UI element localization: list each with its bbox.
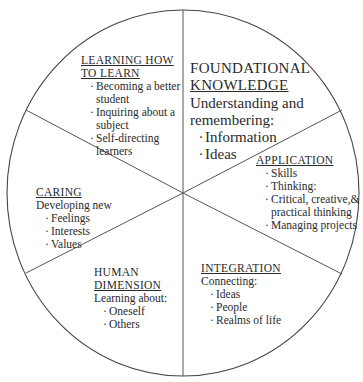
bullet-icon: · [208,301,216,314]
list-item-continuation: subject [81,119,180,132]
foundational-title-line1: FOUNDATIONAL [190,60,310,77]
learning-title-line2: TO LEARN [81,67,180,80]
bullet-icon: · [88,106,96,119]
bullet-icon: · [197,129,205,146]
segment-application: APPLICATION ·Skills ·Thinking: ·Critical… [256,154,359,232]
list-item: ·Ideas [201,288,281,301]
list-item: ·Information [190,129,310,146]
bullet-icon: · [263,167,271,180]
bullet-icon: · [43,238,51,251]
list-item-continuation: learners [81,145,180,158]
segment-caring: CARING Developing new ·Feelings ·Interes… [36,186,112,251]
bullet-icon: · [263,180,271,193]
list-item: ·Inquiring about a [81,106,180,119]
list-item: ·Becoming a better [81,80,180,93]
bullet-icon: · [88,80,96,93]
list-item: ·Others [94,318,167,331]
list-item: ·Thinking: [256,180,359,193]
bullet-icon: · [263,219,271,232]
foundational-subtitle-line2: remembering: [190,112,310,129]
bullet-icon: · [43,225,51,238]
bullet-icon: · [101,318,109,331]
human-subtitle: Learning about: [94,292,167,305]
segment-foundational-knowledge: FOUNDATIONAL KNOWLEDGE Understanding and… [190,60,310,164]
bullet-icon: · [101,305,109,318]
caring-subtitle: Developing new [36,199,112,212]
human-title-line1: HUMAN [94,266,167,279]
list-item: ·Self-directing [81,132,180,145]
foundational-title-line2: KNOWLEDGE [190,77,310,94]
bullet-icon: · [208,288,216,301]
segment-integration: INTEGRATION Connecting: ·Ideas ·People ·… [201,262,281,327]
caring-title: CARING [36,186,112,199]
list-item: ·Critical, creative,& [256,193,359,206]
list-item: ·Values [36,238,112,251]
list-item: ·People [201,301,281,314]
list-item-continuation: student [81,93,180,106]
bullet-icon: · [208,314,216,327]
human-title-line2: DIMENSION [94,279,167,292]
application-title: APPLICATION [256,154,359,167]
bullet-icon: · [43,212,51,225]
integration-subtitle: Connecting: [201,275,281,288]
segment-human-dimension: HUMAN DIMENSION Learning about: ·Oneself… [94,266,167,331]
list-item: ·Realms of life [201,314,281,327]
list-item-continuation: practical thinking [256,206,359,219]
integration-title: INTEGRATION [201,262,281,275]
list-item: ·Managing projects [256,219,359,232]
list-item: ·Feelings [36,212,112,225]
list-item: ·Oneself [94,305,167,318]
foundational-subtitle-line1: Understanding and [190,95,310,112]
list-item: ·Skills [256,167,359,180]
bullet-icon: · [88,132,96,145]
list-item: ·Interests [36,225,112,238]
learning-title-line1: LEARNING HOW [81,54,180,67]
bullet-icon: · [263,193,271,206]
bullet-icon: · [197,146,205,163]
segment-learning-how-to-learn: LEARNING HOW TO LEARN ·Becoming a better… [81,54,180,158]
